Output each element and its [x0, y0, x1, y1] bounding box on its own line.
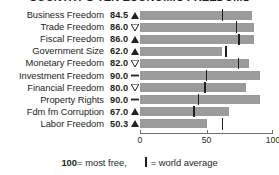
- trend-down-icon: [129, 84, 140, 91]
- bar-track: [140, 45, 273, 57]
- world-average-marker: [222, 9, 224, 20]
- trend-up-icon: [129, 12, 140, 19]
- category-value: 67.0: [106, 107, 128, 117]
- chart-row: Property Rights90.0: [0, 94, 279, 106]
- world-average-marker: [236, 21, 238, 32]
- legend-scale-text: = most free,: [77, 157, 127, 168]
- value-bar: [140, 47, 222, 56]
- value-bar: [140, 35, 254, 44]
- value-bar: [140, 71, 260, 80]
- category-label: Business Freedom: [0, 10, 104, 20]
- chart-row: Financial Freedom80.0: [0, 82, 279, 94]
- chart-row: Monetary Freedom82.0: [0, 57, 279, 69]
- bar-track: [140, 57, 273, 69]
- trend-flat-icon: [129, 72, 140, 79]
- category-value: 90.0: [106, 95, 128, 105]
- category-value: 84.5: [106, 10, 128, 20]
- bar-track: [140, 94, 273, 106]
- chart-title: COUNTRY'S TEN ECONOMIC FREEDOMS: [0, 0, 279, 3]
- trend-down-icon: [129, 24, 140, 31]
- value-bar: [140, 119, 207, 128]
- category-label: Monetary Freedom: [0, 58, 104, 68]
- x-axis-tick: [140, 130, 141, 134]
- legend-average-text: = world average: [151, 157, 218, 168]
- trend-up-icon: [129, 36, 140, 43]
- chart-row: Business Freedom84.5: [0, 9, 279, 21]
- chart-title-clipped: COUNTRY'S TEN ECONOMIC FREEDOMS: [0, 0, 279, 3]
- world-average-marker: [193, 106, 195, 117]
- category-value: 86.0: [106, 34, 128, 44]
- bar-track: [140, 118, 273, 130]
- bar-track: [140, 69, 273, 81]
- chart-row: Government Size62.0: [0, 45, 279, 57]
- bar-track: [140, 21, 273, 33]
- trend-up-icon: [129, 48, 140, 55]
- chart-rows: Business Freedom84.5Trade Freedom86.0Fis…: [0, 9, 279, 130]
- category-value: 80.0: [106, 83, 128, 93]
- trend-flat-icon: [129, 96, 140, 103]
- category-value: 62.0: [106, 46, 128, 56]
- x-axis-tick-labels: 050100: [0, 135, 279, 147]
- category-value: 50.3: [106, 119, 128, 129]
- bar-track: [140, 106, 273, 118]
- value-bar: [140, 83, 246, 92]
- chart-row: Fdm fm Corruption67.0: [0, 106, 279, 118]
- category-label: Financial Freedom: [0, 83, 104, 93]
- chart-row: Labor Freedom50.3: [0, 118, 279, 130]
- bar-track: [140, 82, 273, 94]
- value-bar: [140, 11, 252, 20]
- legend-scale-value: 100: [61, 157, 77, 168]
- category-label: Trade Freedom: [0, 22, 104, 32]
- world-average-marker: [238, 34, 240, 45]
- x-axis-tick-label: 50: [202, 135, 212, 145]
- bar-track: [140, 33, 273, 45]
- x-axis-tick-label: 100: [266, 135, 279, 145]
- x-axis-tick: [272, 130, 273, 134]
- bar-track: [140, 9, 273, 21]
- economic-freedom-chart: COUNTRY'S TEN ECONOMIC FREEDOMS Business…: [0, 0, 279, 175]
- category-value: 82.0: [106, 58, 128, 68]
- value-bar: [140, 95, 260, 104]
- category-label: Property Rights: [0, 95, 104, 105]
- world-average-marker: [204, 82, 206, 93]
- chart-row: Fiscal Freedom86.0: [0, 33, 279, 45]
- category-label: Labor Freedom: [0, 119, 104, 129]
- category-label: Fdm fm Corruption: [0, 107, 104, 117]
- chart-row: Trade Freedom86.0: [0, 21, 279, 33]
- world-average-marker: [225, 46, 227, 57]
- world-average-marker-icon: [145, 157, 147, 167]
- trend-up-icon: [129, 108, 140, 115]
- world-average-marker: [222, 118, 224, 129]
- x-axis-tick: [207, 130, 208, 134]
- x-axis-tick-label: 0: [138, 135, 143, 145]
- trend-up-icon: [129, 120, 140, 127]
- world-average-marker: [206, 70, 208, 81]
- category-label: Fiscal Freedom: [0, 34, 104, 44]
- category-value: 90.0: [106, 71, 128, 81]
- world-average-marker: [198, 94, 200, 105]
- trend-down-icon: [129, 60, 140, 67]
- chart-legend: 100 = most free, = world average: [0, 154, 279, 170]
- category-label: Government Size: [0, 46, 104, 56]
- category-value: 86.0: [106, 22, 128, 32]
- world-average-marker: [238, 58, 240, 69]
- category-label: Investment Freedom: [0, 71, 104, 81]
- chart-row: Investment Freedom90.0: [0, 69, 279, 81]
- x-axis: [140, 133, 273, 134]
- value-bar: [140, 107, 229, 116]
- value-bar: [140, 59, 249, 68]
